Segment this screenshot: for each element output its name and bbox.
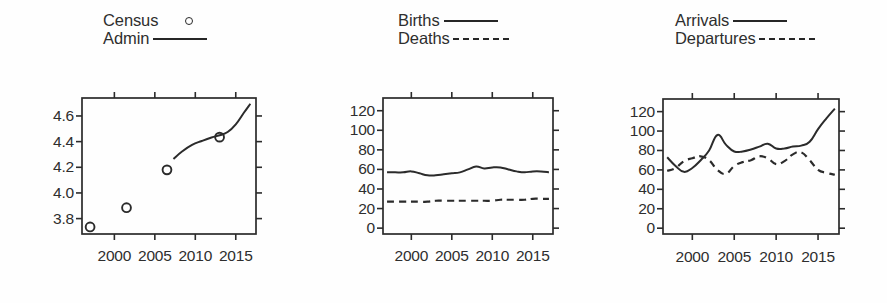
y-tick-label: 0	[647, 220, 655, 236]
plot-area-panel-1: 3.84.04.24.44.62000200520102015	[0, 0, 300, 303]
x-tick-label: 2005	[134, 248, 176, 264]
x-tick-label: 2010	[174, 248, 216, 264]
y-tick-label: 120	[350, 103, 375, 119]
y-tick-label: 100	[350, 122, 375, 138]
y-tick-label: 4.4	[53, 134, 74, 150]
three-panel-demography-figure: Census Admin 3.84.04.24.44.6200020052010…	[0, 0, 887, 303]
y-tick-label: 40	[358, 181, 375, 197]
x-tick-label: 2005	[431, 248, 473, 264]
x-tick-label: 2015	[797, 249, 839, 265]
plot-area-panel-3: 0204060801001202000200520102015	[587, 0, 887, 303]
x-tick-label: 2015	[215, 248, 257, 264]
panel-births-deaths: Births Deaths 02040608010012020002005201…	[290, 0, 590, 303]
x-tick-label: 2000	[93, 248, 135, 264]
panel-arrivals-departures: Arrivals Departures 02040608010012020002…	[587, 0, 887, 303]
panel-census-admin: Census Admin 3.84.04.24.44.6200020052010…	[0, 0, 300, 303]
y-tick-label: 60	[358, 161, 375, 177]
y-tick-label: 4.2	[53, 159, 74, 175]
x-tick-label: 2015	[512, 248, 554, 264]
x-tick-label: 2000	[390, 248, 432, 264]
plot-area-panel-2: 0204060801001202000200520102015	[290, 0, 590, 303]
y-tick-label: 4.0	[53, 185, 74, 201]
y-tick-label: 80	[358, 142, 375, 158]
x-tick-label: 2005	[713, 249, 755, 265]
y-tick-label: 100	[630, 123, 655, 139]
y-tick-label: 20	[638, 201, 655, 217]
y-tick-label: 40	[638, 181, 655, 197]
y-tick-label: 120	[630, 104, 655, 120]
x-tick-label: 2000	[671, 249, 713, 265]
y-tick-label: 4.6	[53, 108, 74, 124]
y-tick-label: 20	[358, 201, 375, 217]
y-tick-label: 60	[638, 162, 655, 178]
y-tick-label: 0	[367, 220, 375, 236]
x-tick-label: 2010	[755, 249, 797, 265]
y-tick-label: 3.8	[53, 211, 74, 227]
x-tick-label: 2010	[471, 248, 513, 264]
y-tick-label: 80	[638, 142, 655, 158]
